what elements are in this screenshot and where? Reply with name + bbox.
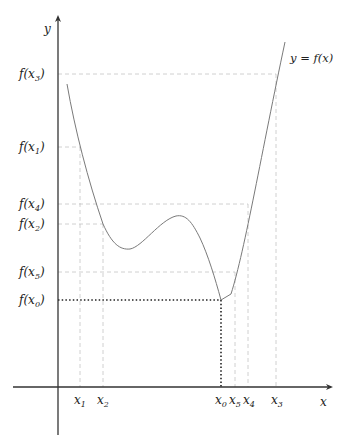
x-tick-x0: x0 [215, 393, 227, 409]
y-tick-labels: f(x3) f(x1) f(x4) f(x2) f(x5) f(x0) [18, 67, 45, 309]
y-tick-f-x3: f(x3) [18, 67, 45, 83]
y-tick-f-x4: f(x4) [18, 197, 45, 213]
guide-lines [58, 74, 276, 387]
x-tick-x5: x5 [229, 393, 241, 409]
function-plot: y x y = f(x) f(x3) f(x1) f(x4) f(x2) f(x… [0, 0, 351, 448]
x0-highlight [58, 300, 221, 387]
x-tick-x1: x1 [74, 393, 86, 409]
x-tick-x2: x2 [97, 393, 109, 409]
y-tick-f-x1: f(x1) [18, 140, 45, 156]
y-axis-label: y [43, 22, 51, 36]
y-tick-f-x0: f(x0) [18, 293, 45, 309]
y-tick-f-x5: f(x5) [18, 265, 45, 281]
x-axis-label: x [320, 395, 327, 409]
axes [13, 17, 331, 435]
x-tick-x4: x4 [243, 393, 255, 409]
x-tick-labels: x1 x2 x0 x5 x4 x3 [74, 393, 283, 409]
y-tick-f-x2: f(x2) [18, 217, 45, 233]
function-curve [67, 42, 285, 300]
x-tick-x3: x3 [271, 393, 283, 409]
curve-label: y = f(x) [289, 51, 333, 65]
